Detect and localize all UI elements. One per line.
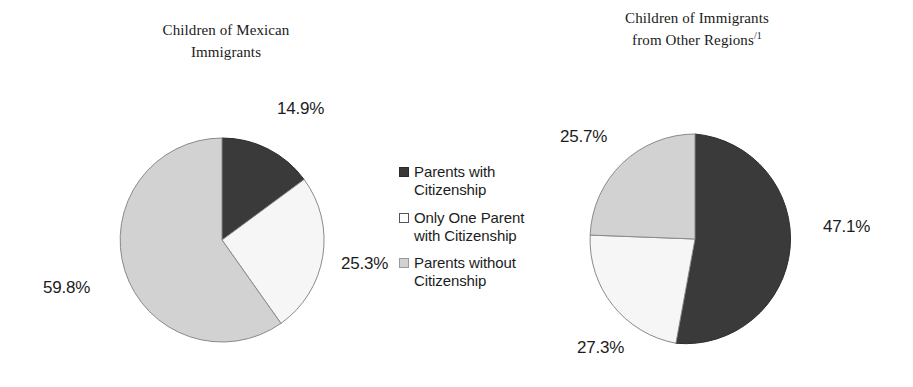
right-chart-title-line2: from Other Regions/1 — [572, 30, 822, 52]
legend-label-line2: Citizenship — [414, 272, 486, 289]
left-value-label-parents-with-citizenship: 14.9% — [277, 99, 324, 119]
legend-item-parents-with-citizenship[interactable]: Parents with Citizenship — [399, 163, 549, 200]
legend-label-line2: Citizenship — [414, 181, 486, 198]
legend-label-line1: Only One Parent — [414, 209, 524, 226]
legend-swatch-dark-icon — [399, 167, 409, 177]
left-value-label-parents-without-citizenship: 59.8% — [43, 278, 90, 298]
right-pie-chart — [589, 133, 801, 345]
legend-item-parents-without-citizenship[interactable]: Parents without Citizenship — [399, 254, 549, 291]
left-chart-title: Children of Mexican Immigrants — [108, 20, 344, 64]
right-slice-one-parent-with-citizenship[interactable] — [590, 235, 695, 343]
legend-swatch-gray-icon — [399, 258, 409, 268]
left-chart-title-line2: Immigrants — [108, 42, 344, 64]
right-value-label-parents-with-citizenship: 47.1% — [823, 217, 870, 237]
legend-label-parents-with-citizenship: Parents with Citizenship — [414, 163, 495, 200]
right-chart-title-line1: Children of Immigrants — [572, 8, 822, 30]
legend-label-line1: Parents without — [414, 254, 516, 271]
right-chart-title-text2: from Other Regions — [632, 32, 754, 48]
right-value-label-parents-without-citizenship: 25.7% — [560, 127, 607, 147]
left-pie-chart — [119, 137, 325, 343]
right-pie-svg — [589, 133, 801, 345]
legend-label-parents-without-citizenship: Parents without Citizenship — [414, 254, 516, 291]
legend: Parents with Citizenship Only One Parent… — [399, 163, 549, 300]
legend-swatch-white-icon — [399, 213, 409, 223]
pie-chart-figure: Children of Mexican Immigrants Children … — [0, 0, 913, 387]
footnote-marker: /1 — [754, 30, 762, 41]
left-value-label-one-parent-with-citizenship: 25.3% — [341, 254, 388, 274]
legend-label-line1: Parents with — [414, 163, 495, 180]
legend-label-line2: with Citizenship — [414, 227, 517, 244]
left-pie-svg — [119, 137, 325, 343]
right-value-label-one-parent-with-citizenship: 27.3% — [577, 338, 624, 358]
legend-label-one-parent-with-citizenship: Only One Parent with Citizenship — [414, 209, 524, 246]
right-chart-title: Children of Immigrants from Other Region… — [572, 8, 822, 52]
legend-item-one-parent-with-citizenship[interactable]: Only One Parent with Citizenship — [399, 209, 549, 246]
right-slice-parents-without-citizenship[interactable] — [590, 134, 695, 239]
left-chart-title-line1: Children of Mexican — [108, 20, 344, 42]
